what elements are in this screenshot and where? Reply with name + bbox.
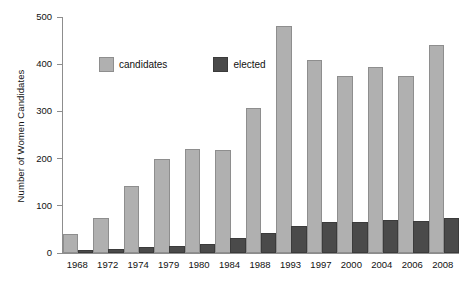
bar-candidates-1979 (154, 159, 170, 254)
x-tick-label-1980: 1980 (184, 258, 214, 272)
bar-group (215, 17, 244, 253)
y-tick-label: 100 (36, 200, 52, 212)
bar-elected-2000 (352, 222, 368, 253)
bar-candidates-2000 (337, 76, 353, 253)
bar-group (93, 17, 122, 253)
bar-elected-2008 (444, 218, 460, 253)
bar-chart: Number of Women Candidates 0100200300400… (0, 0, 469, 292)
legend-label-elected: elected (233, 58, 265, 71)
y-tick: 200 (0, 153, 62, 165)
bar-elected-2006 (413, 221, 429, 253)
bar-group (368, 17, 397, 253)
y-tick-label: 400 (36, 58, 52, 70)
bar-elected-1980 (200, 244, 216, 253)
bar-group (124, 17, 153, 253)
bar-group (429, 17, 458, 253)
legend-label-candidates: candidates (119, 58, 167, 71)
bar-elected-2004 (383, 220, 399, 253)
x-axis-line (62, 253, 459, 254)
bar-group (307, 17, 336, 253)
bar-group (276, 17, 305, 253)
x-tick-label-1974: 1974 (123, 258, 153, 272)
bar-group (337, 17, 366, 253)
bar-candidates-2008 (429, 45, 445, 253)
bar-elected-1984 (230, 238, 246, 253)
bar-elected-1988 (261, 233, 277, 253)
x-tick-label-1972: 1972 (92, 258, 122, 272)
x-tick-label-1993: 1993 (275, 258, 305, 272)
y-tick: 500 (0, 11, 62, 23)
bar-elected-1972 (108, 249, 124, 253)
bar-candidates-1997 (307, 60, 323, 253)
y-tick-label: 0 (47, 247, 52, 259)
bar-candidates-1968 (63, 234, 79, 253)
x-tick-label-1979: 1979 (153, 258, 183, 272)
bar-group (154, 17, 183, 253)
bar-elected-1979 (169, 246, 185, 253)
x-tick-label-2008: 2008 (428, 258, 458, 272)
x-tick-label-2000: 2000 (336, 258, 366, 272)
y-axis-title: Number of Women Candidates (14, 10, 28, 262)
y-tick-label: 300 (36, 105, 52, 117)
x-tick-label-1984: 1984 (214, 258, 244, 272)
legend-swatch-elected-icon (213, 57, 228, 72)
bar-candidates-2004 (368, 67, 384, 253)
x-tick-label-2004: 2004 (367, 258, 397, 272)
legend: candidates elected (99, 57, 266, 72)
bar-candidates-1984 (215, 150, 231, 253)
bar-candidates-1993 (276, 26, 292, 253)
y-tick: 400 (0, 58, 62, 70)
y-tick-label: 500 (36, 11, 52, 23)
bar-group (398, 17, 427, 253)
bar-elected-1997 (322, 222, 338, 253)
y-tick: 100 (0, 200, 62, 212)
bar-candidates-1972 (93, 218, 109, 254)
bar-elected-1974 (139, 247, 155, 253)
bar-candidates-1980 (185, 149, 201, 253)
bar-group (246, 17, 275, 253)
legend-swatch-candidates-icon (99, 57, 114, 72)
legend-item-candidates: candidates (99, 57, 167, 72)
bar-elected-1993 (291, 226, 307, 253)
plot-area (62, 17, 458, 253)
bar-group (185, 17, 214, 253)
y-tick: 0 (0, 247, 62, 259)
bar-group (63, 17, 92, 253)
y-tick-label: 200 (36, 153, 52, 165)
bar-candidates-1988 (246, 108, 262, 253)
x-tick-label-1968: 1968 (62, 258, 92, 272)
bar-elected-1968 (78, 250, 94, 253)
legend-item-elected: elected (213, 57, 265, 72)
bar-candidates-2006 (398, 76, 414, 253)
x-tick-label-1988: 1988 (245, 258, 275, 272)
x-tick-label-1997: 1997 (306, 258, 336, 272)
y-tick: 300 (0, 105, 62, 117)
x-tick-label-2006: 2006 (397, 258, 427, 272)
bar-candidates-1974 (124, 186, 140, 253)
